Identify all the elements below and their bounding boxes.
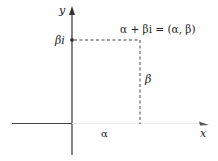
beta-segment-label: β — [145, 74, 151, 85]
imag-tick-label: βi — [55, 35, 65, 46]
x-axis-arrowhead-icon — [199, 122, 209, 126]
y-axis-label: y — [59, 5, 65, 16]
imag-point-dot — [70, 38, 74, 42]
point-equation: α + βi = (α, β) — [120, 24, 196, 35]
x-axis-label: x — [200, 128, 206, 139]
y-axis-arrowhead-icon — [69, 6, 75, 15]
alpha-segment-label: α — [101, 129, 108, 139]
